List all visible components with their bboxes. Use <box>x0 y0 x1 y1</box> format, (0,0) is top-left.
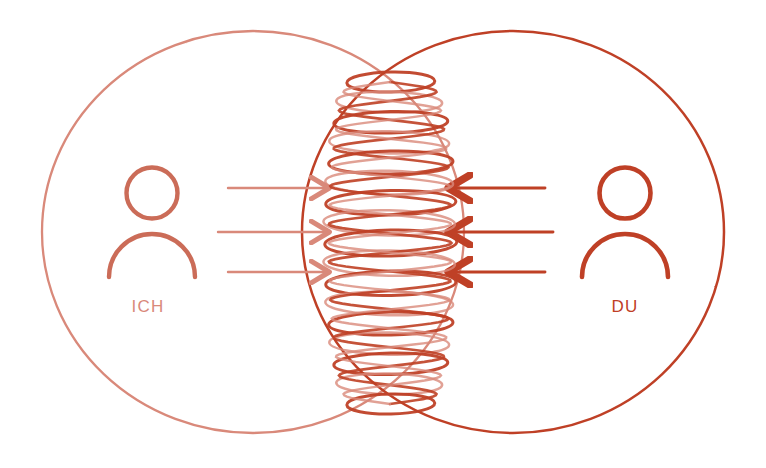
label-ich: ICH <box>132 297 165 316</box>
diagram-canvas: ICH DU <box>0 0 766 468</box>
diagram-svg: ICH DU <box>0 0 766 468</box>
label-du: DU <box>612 297 639 316</box>
